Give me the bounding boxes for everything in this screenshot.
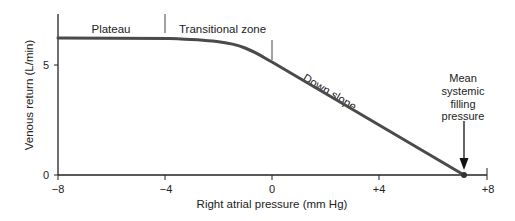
x-tick-label: 0: [269, 183, 275, 195]
x-axis-title: Right atrial pressure (mm Hg): [197, 198, 348, 210]
venous-return-chart: 5 0 −8 −4 0 +4 +8 Right atrial pressure …: [0, 0, 515, 221]
x-tick-label: +8: [482, 183, 495, 195]
msfp-label-line1: Mean: [449, 72, 477, 84]
y-tick-label-5: 5: [43, 59, 49, 71]
msfp-arrow-head: [460, 158, 469, 170]
msfp-label-line3: filling: [450, 98, 475, 110]
zone-label-plateau: Plateau: [91, 23, 130, 35]
msfp-label-line2: systemic: [442, 85, 485, 97]
zone-label-transitional: Transitional zone: [179, 23, 266, 35]
msfp-point: [461, 172, 467, 178]
x-tick-label: −4: [160, 183, 173, 195]
msfp-label-line4: pressure: [442, 110, 485, 122]
venous-return-curve: [58, 38, 464, 175]
y-axis-title: Venous return (L/min): [23, 40, 35, 151]
y-tick-label-0: 0: [43, 169, 49, 181]
x-tick-label: +4: [373, 183, 386, 195]
x-tick-label: −8: [52, 183, 65, 195]
